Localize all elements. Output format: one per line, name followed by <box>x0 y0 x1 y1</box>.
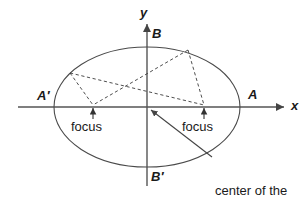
center-annotation-line-1: center of the <box>215 184 287 199</box>
dashed-upper-right-to-focus-left <box>93 50 188 105</box>
dashed-upper-left-to-focus-right <box>70 73 204 105</box>
vertex-label-a: A <box>248 88 257 102</box>
center-annotation: center of the ellipse <box>215 155 287 199</box>
focal-radii-group <box>70 50 204 105</box>
vertex-label-b: B <box>152 27 161 41</box>
x-axis-label: x <box>291 99 298 113</box>
y-axis-label: y <box>140 6 147 20</box>
focus-left-label: focus <box>71 120 102 134</box>
vertex-label-a-prime: A′ <box>37 89 50 103</box>
vertex-label-b-prime: B′ <box>151 170 164 184</box>
focus-right-label: focus <box>182 120 213 134</box>
ellipse-figure: y x A′ A B B′ focus focus center of the … <box>0 0 307 199</box>
